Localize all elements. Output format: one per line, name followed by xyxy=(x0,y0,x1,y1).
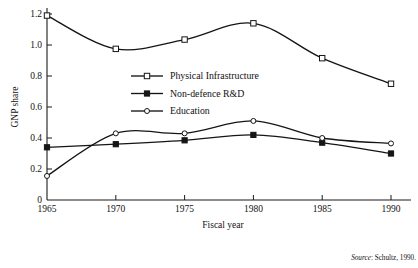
legend-marker-filled-square xyxy=(144,91,149,96)
x-axis-tick-label: 1980 xyxy=(244,204,263,214)
legend-label: Physical Infrastructure xyxy=(170,70,260,81)
x-axis-tick-label: 1970 xyxy=(106,204,125,214)
source-note: Source: Schultz, 1990. xyxy=(351,254,416,262)
y-axis-tick-label: 0.6 xyxy=(30,102,42,112)
chart-figure: 00.20.40.60.81.01.2196519701975198019851… xyxy=(0,0,418,268)
series-line-non-defence-r-d xyxy=(47,135,391,154)
y-axis-title: GNP share xyxy=(10,86,20,127)
data-point-marker xyxy=(182,37,187,42)
legend-label: Non-defence R&D xyxy=(170,88,244,99)
series-line-education xyxy=(47,121,391,176)
y-axis-tick-label: 1.2 xyxy=(30,9,42,19)
legend-label: Education xyxy=(170,105,210,116)
source-text: : Schultz, 1990. xyxy=(371,254,416,262)
data-point-marker xyxy=(388,151,393,156)
data-point-marker xyxy=(251,118,256,123)
data-point-marker xyxy=(44,145,49,150)
data-point-marker xyxy=(44,13,49,18)
source-prefix: Source xyxy=(351,254,371,262)
x-axis-tick-label: 1965 xyxy=(38,204,57,214)
data-point-marker xyxy=(251,21,256,26)
x-axis-title: Fiscal year xyxy=(202,220,244,230)
legend-item: Non-defence R&D xyxy=(131,88,244,99)
y-axis-tick-label: 1.0 xyxy=(30,40,42,50)
legend-item: Education xyxy=(131,105,210,116)
data-point-marker xyxy=(45,173,50,178)
y-axis-tick-label: 0.4 xyxy=(30,133,42,143)
legend-item: Physical Infrastructure xyxy=(131,70,260,81)
chart-legend: Physical InfrastructureNon-defence R&DEd… xyxy=(131,70,260,116)
x-axis-tick-label: 1990 xyxy=(382,204,401,214)
data-point-marker xyxy=(320,55,325,60)
legend-marker-open-square xyxy=(144,73,149,78)
legend-marker-open-circle xyxy=(145,109,150,114)
data-point-marker xyxy=(182,131,187,136)
data-point-marker xyxy=(389,141,394,146)
y-axis-tick-label: 0.2 xyxy=(30,164,42,174)
gnp-share-line-chart: 00.20.40.60.81.01.2196519701975198019851… xyxy=(0,0,418,268)
x-axis-tick-label: 1985 xyxy=(313,204,332,214)
y-axis-tick-label: 0.8 xyxy=(30,71,42,81)
data-point-marker xyxy=(251,132,256,137)
data-point-marker xyxy=(182,138,187,143)
data-point-marker xyxy=(388,81,393,86)
data-point-marker xyxy=(320,136,325,141)
data-point-marker xyxy=(113,142,118,147)
data-point-marker xyxy=(113,131,118,136)
x-axis-tick-label: 1975 xyxy=(175,204,194,214)
data-point-marker xyxy=(113,46,118,51)
